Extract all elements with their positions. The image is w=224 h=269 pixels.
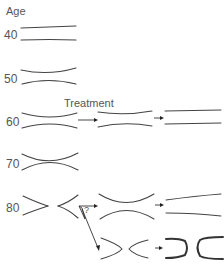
row-60-treated-2 <box>165 110 221 124</box>
row-80-treated-2 <box>166 194 221 216</box>
row-60-treated-1 <box>98 111 152 127</box>
diagram-canvas <box>0 0 224 269</box>
arrow-80-2 <box>155 203 164 207</box>
arrow-60-1 <box>78 118 98 122</box>
row-80-alt-2 <box>166 237 223 259</box>
row-50-shape <box>21 68 76 84</box>
row-60-shape <box>22 113 77 128</box>
arrow-60-2 <box>154 116 164 120</box>
row-70-shape <box>22 153 78 170</box>
row-80-shape <box>23 195 78 218</box>
row-80-alt-1 <box>101 238 148 259</box>
arrow-80-1 <box>79 204 98 219</box>
arrow-80-alt-2 <box>155 246 163 250</box>
row-40-shape <box>21 26 76 40</box>
arrow-80-alt <box>82 209 100 251</box>
row-80-treated-1 <box>99 194 154 219</box>
